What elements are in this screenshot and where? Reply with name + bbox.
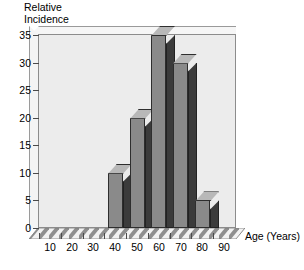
- x-axis-tick: [83, 233, 84, 239]
- bar-front-face: [108, 173, 123, 228]
- x-axis-tick: [61, 233, 62, 239]
- y-axis-tick: [33, 90, 39, 91]
- bar: [195, 191, 219, 228]
- y-axis-tick-label: 20: [5, 113, 31, 123]
- y-axis-tick: [33, 228, 39, 229]
- x-axis-tick-label: 10: [39, 242, 61, 253]
- y-axis-tick-label: 0: [5, 223, 31, 233]
- y-axis-tick: [33, 118, 39, 119]
- x-axis-title: Age (Years): [245, 230, 300, 242]
- x-axis-tick: [39, 233, 40, 239]
- x-axis-tick-label: 20: [61, 242, 83, 253]
- x-axis-tick-label: 40: [104, 242, 126, 253]
- x-axis-tick: [213, 233, 214, 239]
- y-axis-tick-label: 10: [5, 168, 31, 178]
- y-axis-tick-label: 15: [5, 140, 31, 150]
- bar-top-face: [195, 191, 219, 201]
- bar-front-face: [173, 63, 188, 228]
- y-axis-tick-label: 5: [5, 195, 31, 205]
- y-axis-tick: [33, 173, 39, 174]
- x-axis-tick-label: 80: [191, 242, 213, 253]
- bar-top-face: [151, 26, 175, 36]
- bar-front-face: [130, 118, 145, 228]
- y-axis-labels: 05101520253035: [0, 0, 31, 270]
- y-axis-tick: [33, 200, 39, 201]
- y-axis-tick-label: 25: [5, 85, 31, 95]
- y-axis-tick-label: 35: [5, 30, 31, 40]
- bar-front-face: [151, 35, 166, 228]
- x-axis-tick-label: 50: [126, 242, 148, 253]
- bar-top-face: [108, 164, 132, 174]
- bar: [173, 54, 197, 228]
- bar-front-face: [195, 200, 210, 228]
- y-axis-tick: [33, 145, 39, 146]
- x-axis-tick: [126, 233, 127, 239]
- bar-side-face: [210, 200, 219, 228]
- y-axis-tick: [33, 35, 39, 36]
- x-axis-tick-label: 30: [82, 242, 104, 253]
- bar-top-face: [173, 54, 197, 64]
- x-axis-tick: [170, 233, 171, 239]
- x-axis-tick: [191, 233, 192, 239]
- bar: [108, 164, 132, 228]
- bar-chart: Relative Incidence 05101520253035 102030…: [0, 0, 304, 270]
- y-axis-tick-label: 30: [5, 58, 31, 68]
- x-axis-tick-label: 70: [170, 242, 192, 253]
- x-axis-tick-label: 90: [213, 242, 235, 253]
- y-axis-tick: [33, 63, 39, 64]
- bar: [151, 26, 175, 228]
- x-axis-tick: [148, 233, 149, 239]
- x-axis-tick-label: 60: [148, 242, 170, 253]
- x-axis-tick: [104, 233, 105, 239]
